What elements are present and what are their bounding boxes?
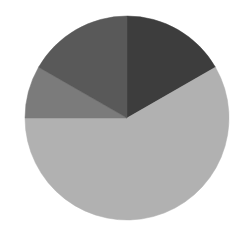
pie-chart-svg — [0, 0, 242, 227]
pie-chart — [0, 0, 242, 227]
